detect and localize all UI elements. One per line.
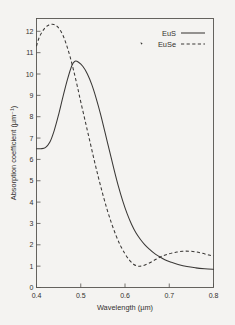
y-axis-title: Absorption coefficient (µm⁻¹) — [9, 106, 18, 200]
legend-label-eus: EuS — [162, 29, 176, 38]
legend: EuS EuSe — [141, 29, 206, 49]
absorption-spectrum-figure: 0.40.50.60.70.8 0123456789101112 EuS EuS… — [0, 0, 235, 325]
y-tick-label: 5 — [30, 177, 34, 184]
y-tick-label: 11 — [26, 49, 33, 56]
y-tick-label: 1 — [30, 263, 34, 270]
legend-label-euse: EuSe — [158, 40, 176, 49]
y-tick-label: 2 — [30, 241, 34, 248]
y-tick-label: 0 — [30, 284, 34, 291]
y-tick-label: 6 — [30, 156, 34, 163]
y-tick-label: 3 — [30, 220, 34, 227]
x-tick-label: 0.6 — [120, 292, 130, 299]
y-axis-ticks — [37, 31, 41, 287]
y-tick-label: 8 — [30, 113, 34, 120]
y-tick-label: 12 — [26, 28, 34, 35]
x-tick-label: 0.7 — [164, 292, 174, 299]
y-tick-label: 9 — [30, 92, 34, 99]
chart-canvas: 0.40.50.60.70.8 0123456789101112 EuS EuS… — [0, 0, 235, 325]
x-tick-label: 0.5 — [76, 292, 86, 299]
series-line-eus — [37, 61, 214, 269]
x-axis-title: Wavelength (µm) — [97, 303, 153, 312]
plot-frame — [37, 19, 214, 288]
y-axis-tick-labels: 0123456789101112 — [26, 28, 34, 291]
x-axis-tick-labels: 0.40.50.60.70.8 — [32, 292, 219, 299]
x-axis-ticks — [37, 284, 214, 288]
series-line-euse — [37, 24, 214, 266]
x-tick-label: 0.4 — [32, 292, 42, 299]
ink-speck-mark — [141, 42, 143, 45]
x-tick-label: 0.8 — [209, 292, 219, 299]
y-tick-label: 7 — [30, 135, 34, 142]
y-tick-label: 4 — [30, 199, 34, 206]
y-tick-label: 10 — [26, 71, 34, 78]
